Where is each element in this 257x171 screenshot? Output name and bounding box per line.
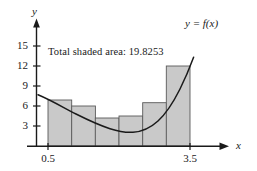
y-tick-label-9: 9 — [6, 80, 28, 91]
y-axis-label: y — [32, 6, 37, 17]
table-row — [72, 106, 96, 146]
riemann-sum-figure: 15 12 9 6 3 0.5 3.5 y x Total shaded are… — [0, 0, 257, 171]
y-tick-label-6: 6 — [6, 100, 28, 111]
bars-group — [48, 66, 190, 146]
y-tick-label-3: 3 — [6, 120, 28, 131]
table-row — [95, 118, 119, 146]
x-axis-label: x — [236, 140, 241, 151]
x-tick-label-0.5: 0.5 — [33, 153, 63, 164]
plot-canvas — [0, 0, 257, 171]
x-axis-arrow-icon — [220, 143, 230, 150]
y-tick-label-15: 15 — [6, 40, 28, 51]
y-axis-arrow-icon — [33, 19, 40, 28]
table-row — [48, 100, 72, 146]
curve-label: y = f(x) — [185, 18, 218, 29]
y-tick-label-12: 12 — [6, 60, 28, 71]
total-shaded-area-annotation: Total shaded area: 19.8253 — [48, 47, 164, 58]
x-tick-label-3.5: 3.5 — [175, 153, 205, 164]
